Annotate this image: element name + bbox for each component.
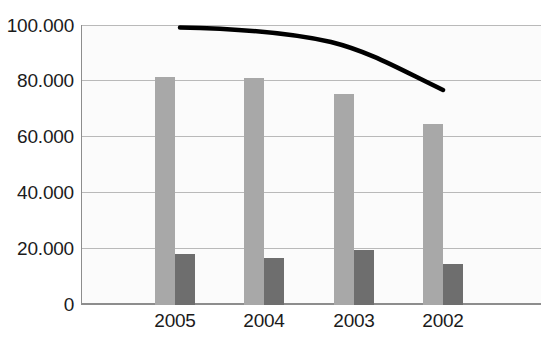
bar-2002-series-1 bbox=[423, 124, 443, 305]
y-axis-tick-label: 100.000 bbox=[0, 16, 74, 35]
bar-2004-series-2 bbox=[264, 258, 284, 305]
y-axis-tick-label: 60.000 bbox=[0, 127, 74, 146]
x-axis-tick-label-2002: 2002 bbox=[403, 311, 483, 330]
bar-2003-series-1 bbox=[334, 94, 354, 305]
bar-2004-series-1 bbox=[244, 78, 264, 305]
gridline-80000 bbox=[81, 80, 541, 81]
bar-2005-series-1 bbox=[155, 77, 175, 305]
x-axis-line bbox=[81, 303, 541, 305]
bar-2003-series-2 bbox=[354, 250, 374, 305]
x-axis: 2005 2004 2003 2002 bbox=[81, 311, 541, 341]
gridline-20000 bbox=[81, 248, 541, 249]
x-axis-tick-label-2004: 2004 bbox=[224, 311, 304, 330]
y-axis-line bbox=[81, 25, 82, 305]
y-axis-tick-label: 20.000 bbox=[0, 239, 74, 258]
line-series-overlay bbox=[81, 25, 541, 305]
y-axis-tick-label: 80.000 bbox=[0, 71, 74, 90]
plot-area bbox=[81, 25, 541, 305]
gridline-100000 bbox=[81, 25, 541, 26]
y-axis-tick-label: 0 bbox=[0, 295, 74, 314]
y-axis: 100.000 80.000 60.000 40.000 20.000 0 bbox=[0, 0, 74, 349]
bar-2005-series-2 bbox=[175, 254, 195, 305]
chart-container: 100.000 80.000 60.000 40.000 20.000 0 bbox=[0, 0, 544, 349]
bar-2002-series-2 bbox=[443, 264, 463, 305]
gridline-40000 bbox=[81, 192, 541, 193]
x-axis-tick-label-2005: 2005 bbox=[135, 311, 215, 330]
y-axis-tick-label: 40.000 bbox=[0, 183, 74, 202]
x-axis-tick-label-2003: 2003 bbox=[314, 311, 394, 330]
gridline-60000 bbox=[81, 136, 541, 137]
